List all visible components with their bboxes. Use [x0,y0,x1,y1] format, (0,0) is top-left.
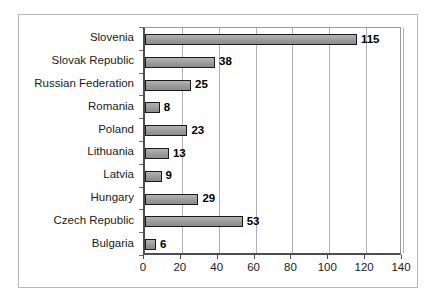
category-axis-tick [139,73,143,74]
category-axis-tick [139,50,143,51]
category-axis-labels: SloveniaSlovak RepublicRussian Federatio… [19,27,139,255]
bar [145,80,191,91]
category-label: Lithuania [87,146,134,158]
value-axis-tick-label: 20 [173,262,186,274]
bar-row: 9 [145,169,400,183]
value-axis-tick-label: 120 [355,262,374,274]
value-axis-tick [180,255,181,259]
category-label: Bulgaria [92,238,134,250]
bar-row: 13 [145,146,400,160]
bar [145,102,160,113]
bar [145,216,243,227]
bar-row: 29 [145,192,400,206]
category-axis-tick [139,95,143,96]
bar-value-label: 13 [173,148,186,160]
category-axis-tick [139,164,143,165]
category-label: Slovenia [90,32,134,44]
category-axis-tick [139,141,143,142]
category-axis-tick [139,187,143,188]
bar-value-label: 9 [166,170,172,182]
category-axis-tick [139,118,143,119]
bar [145,125,187,136]
bar [145,34,357,45]
bar-value-label: 29 [202,193,215,205]
value-axis-tick [143,255,144,259]
category-label: Russian Federation [34,78,134,90]
category-label: Czech Republic [53,215,134,227]
bar-value-label: 115 [361,34,380,46]
bar [145,194,198,205]
bar-row: 38 [145,55,400,69]
category-axis-tick [139,232,143,233]
category-label: Hungary [91,192,134,204]
bar [145,148,169,159]
value-axis-tick-label: 60 [247,262,260,274]
bar-series: 115382582313929536 [145,28,400,253]
category-label: Poland [98,124,134,136]
value-axis-tick [217,255,218,259]
value-axis-tick [327,255,328,259]
category-label: Romania [88,101,134,113]
bar-value-label: 25 [195,79,208,91]
value-axis-tick-label: 40 [210,262,223,274]
bar-value-label: 23 [191,125,204,137]
bar-row: 23 [145,124,400,138]
bar-row: 8 [145,101,400,115]
value-axis-tick-label: 80 [284,262,297,274]
bar-row: 115 [145,32,400,46]
bar-value-label: 8 [164,102,170,114]
value-axis-tick-label: 0 [140,262,146,274]
category-label: Latvia [103,169,134,181]
bar-row: 25 [145,78,400,92]
bar-row: 6 [145,238,400,252]
category-axis-tick [139,27,143,28]
bar [145,239,156,250]
value-axis-tick [364,255,365,259]
bar [145,57,215,68]
bar-row: 53 [145,215,400,229]
value-axis-tick-label: 140 [391,262,410,274]
value-axis-tick [254,255,255,259]
value-axis-tick-label: 100 [318,262,337,274]
bar-value-label: 53 [247,216,260,228]
bar-value-label: 38 [219,56,232,68]
value-axis-tick [401,255,402,259]
bar-value-label: 6 [160,239,166,251]
gridline [403,28,404,253]
category-label: Slovak Republic [52,55,134,67]
bar [145,171,162,182]
bar-chart-figure: SloveniaSlovak RepublicRussian Federatio… [18,14,418,288]
plot-area: 115382582313929536 [143,27,401,255]
category-axis-tick [139,209,143,210]
value-axis-tick [290,255,291,259]
